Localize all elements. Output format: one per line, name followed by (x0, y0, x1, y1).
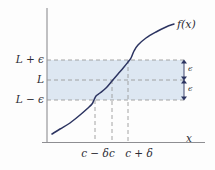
y-tick-label-l-plus-epsilon: L + ϵ (16, 54, 44, 65)
x-axis-label: x (186, 133, 192, 144)
epsilon-delta-limit-figure: L + ϵ L L − ϵ c − δ c c + δ f(x) x ϵ ϵ (0, 0, 215, 170)
epsilon-label-lower: ϵ (188, 85, 192, 93)
function-label: f(x) (177, 19, 196, 30)
y-tick-label-l: L (37, 74, 44, 85)
epsilon-band (47, 60, 184, 100)
x-tick-label-c-plus-delta: c + δ (122, 148, 156, 159)
epsilon-label-upper: ϵ (188, 65, 192, 73)
x-tick-label-c: c (106, 148, 118, 159)
y-tick-label-l-minus-epsilon: L − ϵ (16, 94, 44, 105)
